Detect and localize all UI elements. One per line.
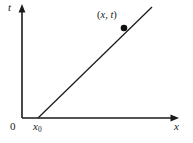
spacetime-diagram: t x 0 x0 (x, t): [0, 0, 193, 143]
t-axis-arrowhead: [19, 4, 26, 13]
x0-subscript: 0: [38, 125, 42, 134]
origin-label: 0: [10, 121, 16, 132]
t-axis-label: t: [8, 2, 11, 13]
x0-intercept-label: x0: [33, 121, 42, 132]
paren-close: ): [113, 9, 117, 20]
worldline: [38, 7, 152, 118]
diagram-canvas: [0, 0, 193, 143]
event-point-marker: [121, 25, 128, 32]
x-axis-label: x: [174, 121, 179, 132]
event-point-label: (x, t): [97, 10, 117, 21]
